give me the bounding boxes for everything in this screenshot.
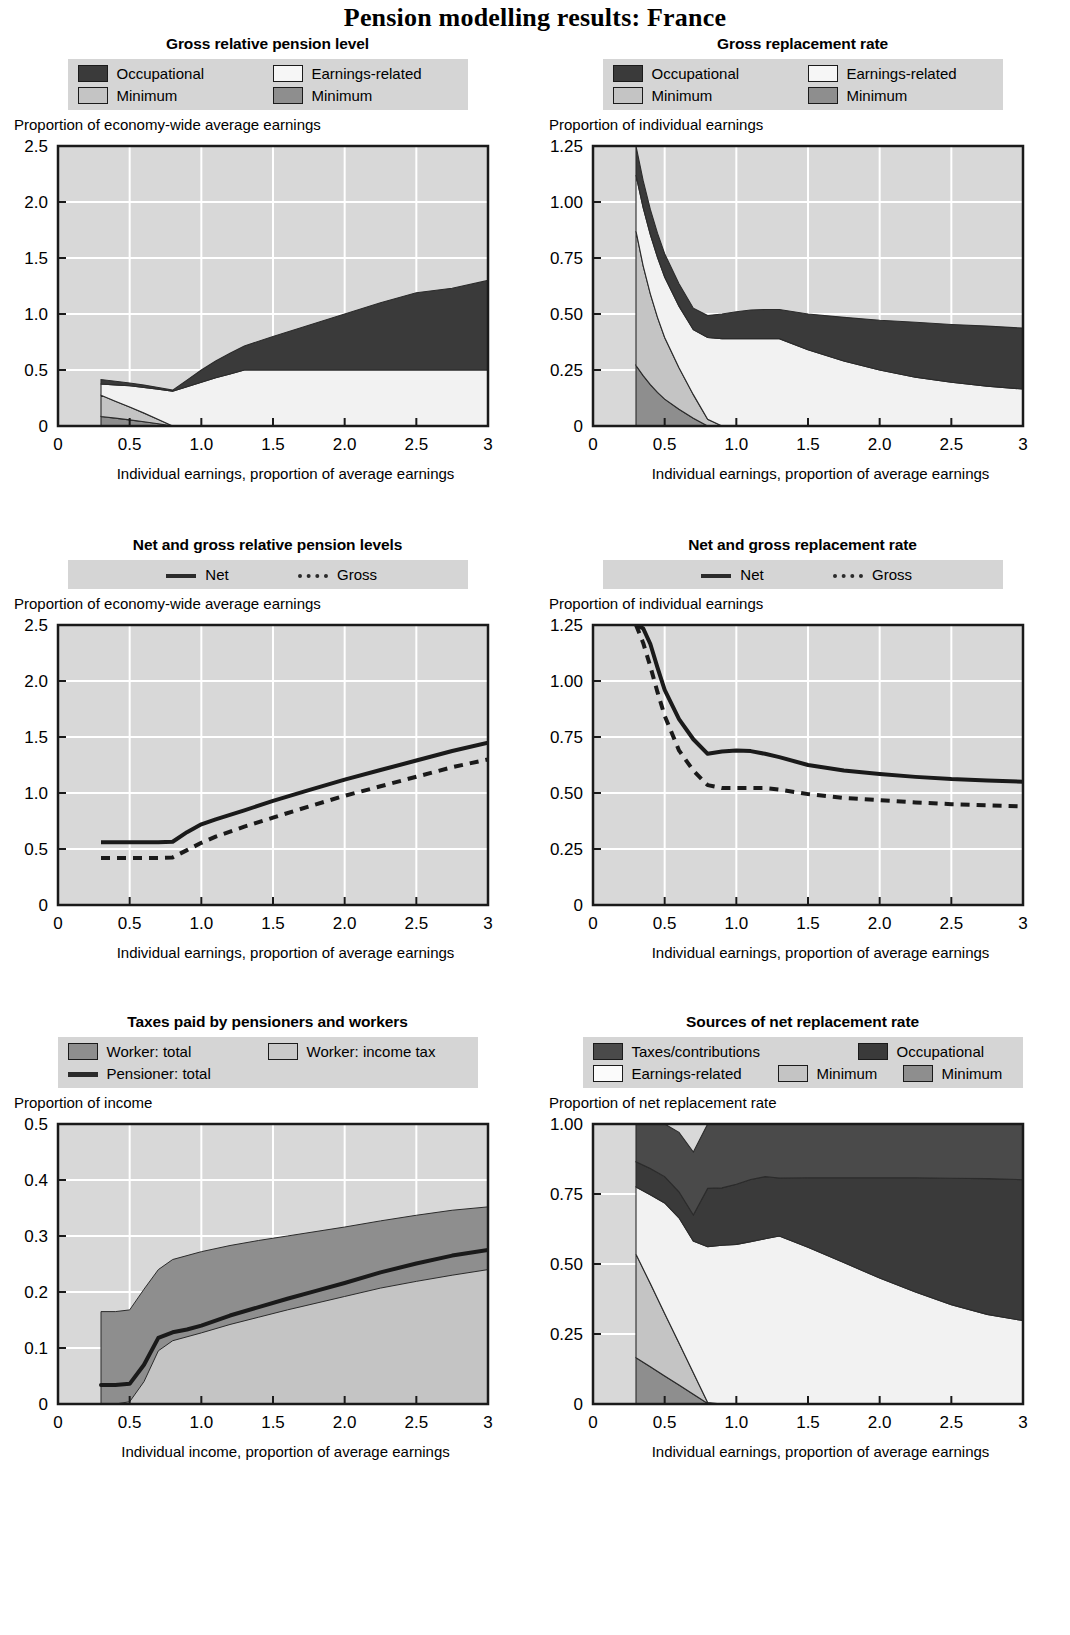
legend-item-minimum-dark[interactable]: Minimum: [903, 1065, 1003, 1082]
dash-swatch-gross: [833, 574, 863, 578]
svg-text:3: 3: [483, 914, 492, 933]
svg-text:1.5: 1.5: [796, 435, 820, 454]
swatch-occupational: [858, 1043, 888, 1060]
legend-label: Worker: total: [107, 1043, 192, 1060]
swatch-earnings-related: [273, 65, 303, 82]
svg-text:3: 3: [1018, 435, 1027, 454]
svg-text:0: 0: [53, 435, 62, 454]
svg-text:0.5: 0.5: [118, 435, 142, 454]
svg-text:0.5: 0.5: [24, 840, 48, 859]
legend-item-minimum-light[interactable]: Minimum: [613, 87, 808, 104]
legend-item-minimum-dark[interactable]: Minimum: [808, 87, 908, 104]
legend-item-occupational[interactable]: Occupational: [858, 1043, 985, 1060]
legend-item-net[interactable]: Net: [128, 566, 268, 583]
svg-text:2.5: 2.5: [24, 616, 48, 635]
svg-text:3: 3: [1018, 914, 1027, 933]
chart-canvas: 00.10.20.30.40.500.51.01.52.02.53: [0, 1112, 535, 1442]
svg-text:1.25: 1.25: [550, 137, 583, 156]
legend-item-minimum-dark[interactable]: Minimum: [273, 87, 373, 104]
swatch-minimum-light: [78, 87, 108, 104]
legend-item-taxes-contributions[interactable]: Taxes/contributions: [593, 1043, 858, 1060]
svg-text:0: 0: [574, 896, 583, 915]
svg-text:0: 0: [574, 417, 583, 436]
svg-text:2.0: 2.0: [868, 914, 892, 933]
chart-canvas: 00.250.500.751.0000.51.01.52.02.53: [535, 1112, 1070, 1442]
legend-item-net[interactable]: Net: [663, 566, 803, 583]
legend-item-worker-income-tax[interactable]: Worker: income tax: [268, 1043, 436, 1060]
svg-text:2.0: 2.0: [333, 914, 357, 933]
panel-title: Net and gross replacement rate: [535, 534, 1070, 560]
legend: Occupational Earnings-related Minimum Mi…: [603, 59, 1003, 110]
panel-net-and-gross-relative-pension-levels: Net and gross relative pension levels Ne…: [0, 482, 535, 961]
x-axis-label: Individual earnings, proportion of avera…: [0, 464, 535, 482]
y-axis-note: Proportion of net replacement rate: [535, 1094, 1070, 1111]
charts-grid: Gross relative pension level Occupationa…: [0, 33, 1070, 1460]
legend-label: Worker: income tax: [307, 1043, 436, 1060]
legend-label: Net: [740, 566, 763, 583]
legend-label: Minimum: [817, 1065, 878, 1082]
legend: Worker: total Worker: income tax Pension…: [58, 1037, 478, 1088]
legend-label: Earnings-related: [847, 65, 957, 82]
legend-item-occupational[interactable]: Occupational: [78, 65, 273, 82]
svg-text:2.5: 2.5: [24, 137, 48, 156]
swatch-minimum-light: [613, 87, 643, 104]
legend-item-earnings-related[interactable]: Earnings-related: [273, 65, 422, 82]
chart-canvas: 00.250.500.751.001.2500.51.01.52.02.53: [535, 134, 1070, 464]
panel-title: Gross replacement rate: [535, 33, 1070, 59]
svg-text:2.0: 2.0: [24, 193, 48, 212]
legend-item-pensioner-total[interactable]: Pensioner: total: [68, 1065, 211, 1082]
svg-text:0.2: 0.2: [24, 1283, 48, 1302]
svg-text:2.0: 2.0: [868, 435, 892, 454]
y-axis-note: Proportion of income: [0, 1094, 535, 1111]
svg-text:0.5: 0.5: [118, 1413, 142, 1432]
svg-text:2.0: 2.0: [24, 672, 48, 691]
svg-text:1.0: 1.0: [725, 1413, 749, 1432]
legend: Taxes/contributions Occupational Earning…: [583, 1037, 1023, 1088]
legend-item-gross[interactable]: Gross: [803, 566, 943, 583]
legend-label: Occupational: [652, 65, 740, 82]
legend: Occupational Earnings-related Minimum Mi…: [68, 59, 468, 110]
svg-text:2.5: 2.5: [405, 1413, 429, 1432]
svg-text:0.50: 0.50: [550, 305, 583, 324]
panel-title: Gross relative pension level: [0, 33, 535, 59]
legend-item-gross[interactable]: Gross: [268, 566, 408, 583]
svg-text:1.00: 1.00: [550, 672, 583, 691]
x-axis-label: Individual earnings, proportion of avera…: [535, 943, 1070, 961]
svg-text:0: 0: [39, 1395, 48, 1414]
legend: Net Gross: [603, 560, 1003, 589]
svg-text:1.0: 1.0: [190, 914, 214, 933]
svg-text:0.5: 0.5: [653, 1413, 677, 1432]
swatch-worker-total: [68, 1043, 98, 1060]
svg-text:1.25: 1.25: [550, 616, 583, 635]
legend-item-minimum-light[interactable]: Minimum: [78, 87, 273, 104]
chart-canvas: 00.51.01.52.02.500.51.01.52.02.53: [0, 613, 535, 943]
svg-text:1.00: 1.00: [550, 1115, 583, 1134]
page-title: Pension modelling results: France: [0, 0, 1070, 33]
legend-item-earnings-related[interactable]: Earnings-related: [808, 65, 957, 82]
svg-text:2.5: 2.5: [405, 435, 429, 454]
x-axis-label: Individual earnings, proportion of avera…: [535, 464, 1070, 482]
svg-text:1.5: 1.5: [261, 1413, 285, 1432]
svg-text:0.5: 0.5: [118, 914, 142, 933]
legend-item-minimum-light[interactable]: Minimum: [778, 1065, 903, 1082]
panel-gross-replacement-rate: Gross replacement rate Occupational Earn…: [535, 33, 1070, 482]
svg-text:1.5: 1.5: [796, 914, 820, 933]
legend-item-earnings-related[interactable]: Earnings-related: [593, 1065, 778, 1082]
panel-net-and-gross-replacement-rate: Net and gross replacement rate Net Gross…: [535, 482, 1070, 961]
svg-text:0.25: 0.25: [550, 840, 583, 859]
legend-label: Minimum: [117, 87, 178, 104]
x-axis-label: Individual earnings, proportion of avera…: [535, 1442, 1070, 1460]
legend-item-worker-total[interactable]: Worker: total: [68, 1043, 268, 1060]
swatch-minimum-dark: [903, 1065, 933, 1082]
svg-text:2.5: 2.5: [940, 435, 964, 454]
svg-text:0.75: 0.75: [550, 1185, 583, 1204]
y-axis-note: Proportion of individual earnings: [535, 116, 1070, 133]
legend-item-occupational[interactable]: Occupational: [613, 65, 808, 82]
svg-text:0.5: 0.5: [653, 914, 677, 933]
svg-text:0: 0: [39, 417, 48, 436]
line-swatch-net: [701, 574, 731, 578]
svg-text:3: 3: [483, 435, 492, 454]
svg-text:1.0: 1.0: [190, 435, 214, 454]
y-axis-note: Proportion of individual earnings: [535, 595, 1070, 612]
svg-text:0: 0: [574, 1395, 583, 1414]
